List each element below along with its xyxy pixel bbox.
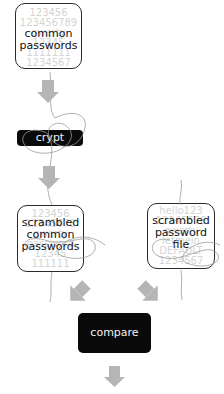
bg-value: 1234567 — [16, 58, 81, 68]
scrambled-common-passwords-node: 123456 12345678 qwerty password 12345 11… — [17, 205, 84, 272]
compare-label: compare — [90, 326, 138, 339]
bg-value: 1234567 — [148, 256, 214, 266]
scrambled-common-label: scrambled common passwords — [18, 217, 83, 253]
common-passwords-node: 123456 123456789 qwerty 12345 1111111 12… — [15, 3, 82, 69]
common-passwords-label: common passwords — [16, 28, 81, 52]
label-line: file — [148, 239, 214, 251]
crypt-label: crypt — [36, 131, 64, 144]
arrow-down-icon — [38, 166, 60, 189]
scrambled-password-file-node: hello123 12345678 qwerty letmein DEFAULT… — [147, 203, 215, 269]
label-line: passwords — [18, 241, 83, 253]
crypt-node: crypt — [17, 130, 83, 146]
arrow-down-icon — [104, 366, 125, 387]
label-line: passwords — [16, 40, 81, 52]
arrow-down-icon — [37, 80, 59, 103]
bg-value: 111111 — [18, 259, 83, 269]
arrow-diagonal-icon — [62, 277, 94, 309]
arrow-diagonal-icon — [134, 277, 166, 309]
scrambled-file-label: scrambled password file — [148, 215, 214, 251]
compare-node: compare — [78, 313, 151, 353]
